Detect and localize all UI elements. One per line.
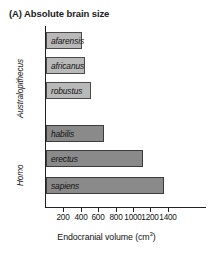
figure-absolute-brain-size: (A) Absolute brain size Australopithecus… <box>0 0 213 259</box>
bar-label-sapiens: sapiens <box>51 181 79 191</box>
bar-label-habilis: habilis <box>51 129 74 139</box>
x-tick-1400 <box>168 208 169 212</box>
x-tick-label-200: 200 <box>56 213 69 222</box>
bar-robustus: robustus <box>46 82 91 99</box>
x-axis-title-tail: ) <box>153 232 156 242</box>
x-axis-title-text: Endocranial volume (cm <box>57 232 149 242</box>
x-tick-600 <box>98 208 99 212</box>
bar-sapiens: sapiens <box>46 177 164 194</box>
x-tick-label-1200: 1200 <box>141 213 158 222</box>
x-axis-title: Endocranial volume (cm3) <box>0 231 213 242</box>
bar-habilis: habilis <box>46 125 104 142</box>
x-tick-label-600: 600 <box>91 213 104 222</box>
x-tick-400 <box>81 208 82 212</box>
group-label-homo: Homo <box>16 165 25 186</box>
x-axis-line <box>45 207 206 208</box>
x-tick-1200 <box>150 208 151 212</box>
bar-label-africanus: africanus <box>51 61 84 71</box>
x-tick-1000 <box>133 208 134 212</box>
x-tick-label-800: 800 <box>109 213 122 222</box>
bar-label-erectus: erectus <box>51 154 78 164</box>
x-tick-200 <box>63 208 64 212</box>
bar-erectus: erectus <box>46 150 143 167</box>
bar-label-robustus: robustus <box>51 86 82 96</box>
x-tick-label-1000: 1000 <box>124 213 141 222</box>
chart-title: (A) Absolute brain size <box>9 8 109 19</box>
x-tick-800 <box>116 208 117 212</box>
x-tick-label-1400: 1400 <box>159 213 176 222</box>
bar-label-afarensis: afarensis <box>51 36 84 46</box>
bar-afarensis: afarensis <box>46 32 82 49</box>
x-tick-label-400: 400 <box>74 213 87 222</box>
bar-africanus: africanus <box>46 57 85 74</box>
group-label-australopithecus: Australopithecus <box>16 59 25 118</box>
